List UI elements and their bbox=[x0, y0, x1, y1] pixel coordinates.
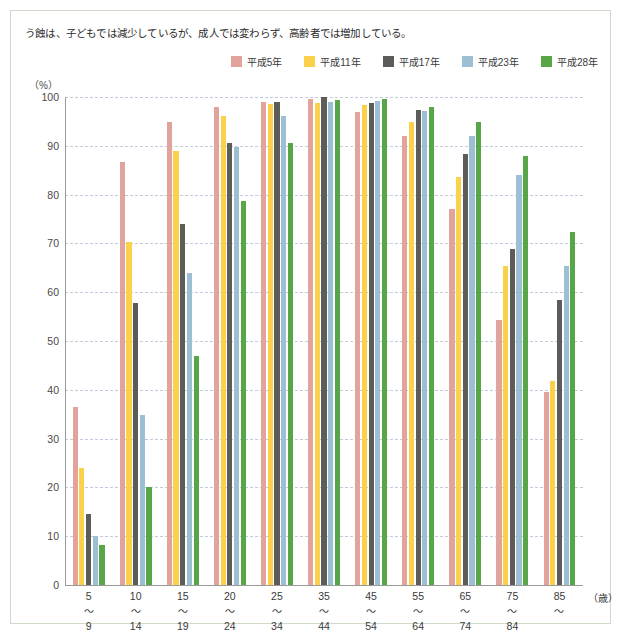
bar-group bbox=[300, 97, 347, 585]
bar-group bbox=[536, 97, 583, 585]
bar[interactable] bbox=[268, 104, 273, 585]
legend-item-label: 平成23年 bbox=[478, 54, 519, 69]
x-tick-upper-bound: 54 bbox=[348, 619, 395, 634]
x-tick-upper-bound: 74 bbox=[442, 619, 489, 634]
x-tick-range-separator: 〜 bbox=[348, 604, 395, 619]
screenshot-root: う蝕は、子どもでは減少しているが、成人では変わらず、高齢者では増加している。 平… bbox=[0, 0, 621, 637]
legend-swatch-icon bbox=[383, 56, 394, 67]
legend-item-label: 平成5年 bbox=[247, 54, 283, 69]
y-axis-tick-label: 0 bbox=[29, 579, 59, 591]
bar[interactable] bbox=[180, 224, 185, 585]
bar[interactable] bbox=[503, 266, 508, 585]
bar[interactable] bbox=[456, 177, 461, 585]
bar[interactable] bbox=[79, 468, 84, 585]
x-tick-range-separator: 〜 bbox=[65, 604, 112, 619]
x-axis-tick-label: 85〜 bbox=[536, 589, 583, 634]
bar[interactable] bbox=[335, 100, 340, 585]
bar[interactable] bbox=[140, 415, 145, 585]
bar[interactable] bbox=[234, 147, 239, 585]
y-axis-tick-label: 80 bbox=[29, 189, 59, 201]
x-tick-lower-bound: 55 bbox=[395, 589, 442, 604]
bar[interactable] bbox=[187, 273, 192, 585]
bar[interactable] bbox=[369, 103, 374, 585]
legend-item[interactable]: 平成28年 bbox=[541, 54, 598, 69]
bar[interactable] bbox=[469, 136, 474, 585]
bar-group bbox=[489, 97, 536, 585]
bar[interactable] bbox=[93, 536, 98, 585]
bar[interactable] bbox=[126, 242, 131, 585]
x-tick-range-separator: 〜 bbox=[300, 604, 347, 619]
bar[interactable] bbox=[288, 143, 293, 585]
bar[interactable] bbox=[557, 300, 562, 585]
legend-item[interactable]: 平成17年 bbox=[383, 54, 440, 69]
bar-group bbox=[112, 97, 159, 585]
bar-group bbox=[395, 97, 442, 585]
bar[interactable] bbox=[99, 545, 104, 585]
legend-swatch-icon bbox=[231, 56, 242, 67]
bar[interactable] bbox=[328, 102, 333, 585]
y-axis-tick-label: 40 bbox=[29, 384, 59, 396]
x-axis-unit-label: （歳） bbox=[588, 590, 618, 605]
bar-group bbox=[65, 97, 112, 585]
bar[interactable] bbox=[516, 175, 521, 585]
legend-item[interactable]: 平成5年 bbox=[231, 54, 283, 69]
bar[interactable] bbox=[429, 107, 434, 585]
chart-panel: う蝕は、子どもでは減少しているが、成人では変わらず、高齢者では増加している。 平… bbox=[10, 10, 611, 624]
bar[interactable] bbox=[362, 105, 367, 585]
bar-group bbox=[442, 97, 489, 585]
bar[interactable] bbox=[564, 266, 569, 585]
bar[interactable] bbox=[194, 356, 199, 585]
x-tick-upper-bound: 84 bbox=[489, 619, 536, 634]
bar[interactable] bbox=[241, 201, 246, 585]
x-tick-upper-bound: 19 bbox=[159, 619, 206, 634]
bar[interactable] bbox=[416, 110, 421, 585]
chart-caption: う蝕は、子どもでは減少しているが、成人では変わらず、高齢者では増加している。 bbox=[25, 25, 412, 40]
bar[interactable] bbox=[382, 99, 387, 585]
bar[interactable] bbox=[133, 303, 138, 585]
bar[interactable] bbox=[449, 209, 454, 585]
bar[interactable] bbox=[214, 107, 219, 585]
x-axis-tick-label: 35〜44 bbox=[300, 589, 347, 634]
x-tick-lower-bound: 85 bbox=[536, 589, 583, 604]
bar[interactable] bbox=[476, 122, 481, 585]
bar[interactable] bbox=[422, 111, 427, 585]
bar[interactable] bbox=[550, 381, 555, 585]
x-tick-range-separator: 〜 bbox=[253, 604, 300, 619]
bar[interactable] bbox=[544, 392, 549, 585]
bar[interactable] bbox=[463, 154, 468, 585]
bar[interactable] bbox=[523, 156, 528, 585]
legend-item[interactable]: 平成23年 bbox=[462, 54, 519, 69]
bar[interactable] bbox=[321, 97, 326, 585]
bar[interactable] bbox=[510, 249, 515, 585]
bar-group bbox=[159, 97, 206, 585]
x-tick-range-separator: 〜 bbox=[489, 604, 536, 619]
bar[interactable] bbox=[261, 102, 266, 585]
bar[interactable] bbox=[146, 487, 151, 585]
bar[interactable] bbox=[173, 151, 178, 585]
bar[interactable] bbox=[308, 99, 313, 585]
bar[interactable] bbox=[274, 102, 279, 585]
bar[interactable] bbox=[315, 103, 320, 585]
plot-area: （%） 0102030405060708090100 5〜910〜1415〜19… bbox=[11, 73, 610, 623]
bar[interactable] bbox=[281, 116, 286, 585]
bar[interactable] bbox=[221, 116, 226, 585]
bar[interactable] bbox=[227, 143, 232, 585]
bar[interactable] bbox=[496, 320, 501, 585]
x-axis-tick-label: 55〜64 bbox=[395, 589, 442, 634]
bar[interactable] bbox=[375, 101, 380, 585]
y-axis-tick-label: 100 bbox=[29, 91, 59, 103]
legend-item[interactable]: 平成11年 bbox=[304, 54, 360, 69]
bar[interactable] bbox=[409, 122, 414, 585]
bar[interactable] bbox=[402, 136, 407, 585]
bar[interactable] bbox=[86, 514, 91, 585]
bar[interactable] bbox=[355, 112, 360, 585]
x-tick-lower-bound: 75 bbox=[489, 589, 536, 604]
x-tick-upper-bound: 24 bbox=[206, 619, 253, 634]
bar[interactable] bbox=[570, 232, 575, 585]
x-tick-lower-bound: 25 bbox=[253, 589, 300, 604]
legend-item-label: 平成17年 bbox=[399, 54, 440, 69]
bar-group bbox=[348, 97, 395, 585]
bar[interactable] bbox=[167, 122, 172, 585]
bar[interactable] bbox=[120, 162, 125, 585]
bar[interactable] bbox=[73, 407, 78, 585]
